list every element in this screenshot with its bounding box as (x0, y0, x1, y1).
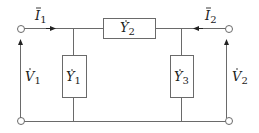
v2-dot (236, 68, 238, 70)
port1-bottom-terminal (18, 118, 25, 125)
admittance-y1: Y1 (63, 29, 87, 122)
admittance-y2: Y2 (104, 19, 156, 39)
port2-top-terminal (226, 26, 233, 33)
port2-bottom-terminal (226, 118, 233, 125)
voltage-v1-label: V1 (25, 69, 41, 86)
current-i2-label: I2 (204, 8, 217, 25)
voltage-v2-label: V2 (232, 69, 248, 86)
v1-dot (29, 68, 31, 70)
circuit-diagram: Y1 Y2 Y3 I1 I2 V1 (0, 0, 259, 133)
y3-dot (179, 69, 181, 71)
port1-top-terminal (18, 26, 25, 33)
admittance-y3: Y3 (171, 29, 194, 122)
current-i1-label: I1 (34, 8, 47, 25)
y1-dot (71, 69, 73, 71)
y2-dot (125, 20, 127, 22)
